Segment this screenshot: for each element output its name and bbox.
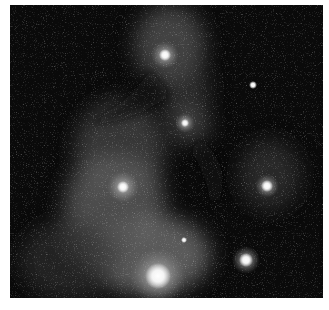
nebula-photo (10, 5, 323, 298)
photo-caption (10, 303, 323, 310)
nebula-image (10, 5, 323, 298)
